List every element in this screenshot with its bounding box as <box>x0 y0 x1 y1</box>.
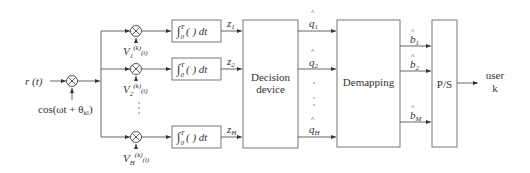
carrier-label: cos(ωt + θkl) <box>38 103 93 117</box>
output-user-label: user <box>486 69 505 81</box>
svg-text:device: device <box>256 83 285 95</box>
code-v1-label: V1(k)(t) <box>123 44 148 60</box>
demapping-block: Demapping <box>337 20 400 147</box>
bm-label: ^ bM <box>410 103 423 123</box>
svg-text:q1: q1 <box>309 17 318 31</box>
b1-label: ^ b1 <box>410 27 419 47</box>
svg-text:Demapping: Demapping <box>343 76 395 88</box>
svg-text:^: ^ <box>311 47 315 55</box>
svg-text:Decision: Decision <box>251 71 291 83</box>
parallel-to-serial-block: P/S <box>432 20 457 147</box>
z2-label: z2 <box>226 55 235 69</box>
receiver-block-diagram: r (t) cos(ωt + θkl) V1(k)(t) V2(k)(t) <box>0 0 530 173</box>
svg-text:qH: qH <box>309 123 321 137</box>
decision-device-block: Decision device <box>243 20 298 148</box>
branch-mixer-2 <box>131 64 142 75</box>
svg-text:P/S: P/S <box>437 78 452 90</box>
zh-label: zH <box>226 123 237 137</box>
integrator-1: ∫T0( ) dt <box>172 20 221 42</box>
svg-text:^: ^ <box>311 115 315 123</box>
output-k-label: k <box>492 82 498 94</box>
svg-text:^: ^ <box>311 8 315 16</box>
input-signal-label: r (t) <box>25 75 43 88</box>
q1-label: ^ q1 <box>309 8 318 31</box>
svg-text:b2: b2 <box>410 58 420 72</box>
q-ellipsis <box>313 82 315 106</box>
code-v2-label: V2(k)(t) <box>123 82 148 98</box>
branch-mixer-1 <box>131 26 142 37</box>
branch-ellipsis <box>138 102 140 114</box>
svg-text:q2: q2 <box>309 56 319 70</box>
svg-text:b1: b1 <box>410 33 419 47</box>
svg-text:bM: bM <box>410 109 423 123</box>
code-vh-label: VH(k)(t) <box>123 151 150 167</box>
z1-label: z1 <box>226 17 235 31</box>
branch-mixer-h <box>131 132 142 143</box>
carrier-mixer <box>67 76 78 87</box>
integrator-h: ∫T0( ) dt <box>172 126 221 148</box>
b2-label: ^ b2 <box>410 52 420 72</box>
qh-label: ^ qH <box>309 115 321 137</box>
integrator-2: ∫T0( ) dt <box>172 58 221 80</box>
q2-label: ^ q2 <box>309 47 319 70</box>
